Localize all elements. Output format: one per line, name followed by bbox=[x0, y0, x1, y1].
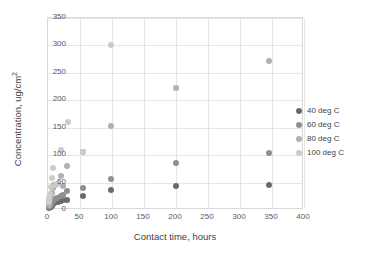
data-point bbox=[266, 182, 272, 188]
data-point bbox=[80, 193, 86, 199]
legend-item-label: 40 deg C bbox=[307, 107, 339, 115]
data-point bbox=[108, 42, 114, 48]
gridline-horizontal bbox=[48, 18, 302, 19]
data-point bbox=[108, 176, 114, 182]
y-axis-title: Concentration, ug/cm2 bbox=[11, 39, 23, 199]
data-point bbox=[64, 163, 70, 169]
y-tick-label: 350 bbox=[26, 13, 66, 21]
gridline-horizontal bbox=[48, 128, 302, 129]
y-axis-title-text: Concentration, ug/cm bbox=[12, 76, 23, 166]
y-tick-label: 250 bbox=[26, 68, 66, 76]
data-point bbox=[173, 85, 179, 91]
legend-marker-icon bbox=[296, 122, 302, 128]
gridline-vertical bbox=[176, 18, 177, 208]
scatter-chart: 050100150200250300350 050100150200250300… bbox=[0, 0, 373, 254]
gridline-vertical bbox=[80, 18, 81, 208]
gridline-vertical bbox=[240, 18, 241, 208]
data-point bbox=[64, 188, 70, 194]
gridline-horizontal bbox=[48, 155, 302, 156]
legend-item[interactable]: 40 deg C bbox=[296, 104, 373, 118]
legend-item[interactable]: 60 deg C bbox=[296, 118, 373, 132]
data-point bbox=[173, 183, 179, 189]
legend-item[interactable]: 100 deg C bbox=[296, 146, 373, 160]
y-tick-label: 300 bbox=[26, 40, 66, 48]
data-point bbox=[108, 187, 114, 193]
data-point bbox=[64, 197, 70, 203]
legend-item-label: 80 deg C bbox=[307, 135, 339, 143]
data-point bbox=[50, 165, 56, 171]
data-point bbox=[266, 150, 272, 156]
gridline-vertical bbox=[144, 18, 145, 208]
legend-item-label: 60 deg C bbox=[307, 121, 339, 129]
y-tick-label: 150 bbox=[26, 123, 66, 131]
y-tick-label: 200 bbox=[26, 95, 66, 103]
data-point bbox=[80, 149, 86, 155]
legend-marker-icon bbox=[296, 150, 302, 156]
legend: 40 deg C60 deg C80 deg C100 deg C bbox=[296, 104, 373, 160]
data-point bbox=[80, 185, 86, 191]
legend-marker-icon bbox=[296, 108, 302, 114]
gridline-vertical bbox=[272, 18, 273, 208]
data-point bbox=[47, 191, 53, 197]
legend-item-label: 100 deg C bbox=[307, 149, 344, 157]
legend-item[interactable]: 80 deg C bbox=[296, 132, 373, 146]
gridline-horizontal bbox=[48, 45, 302, 46]
legend-marker-icon bbox=[296, 136, 302, 142]
gridline-horizontal bbox=[48, 73, 302, 74]
gridline-vertical bbox=[208, 18, 209, 208]
y-axis-title-exponent: 2 bbox=[11, 72, 18, 76]
y-tick-label: 50 bbox=[26, 178, 66, 186]
y-tick-label: 100 bbox=[26, 150, 66, 158]
x-tick-label: 400 bbox=[283, 213, 323, 221]
data-point bbox=[266, 58, 272, 64]
data-point bbox=[173, 160, 179, 166]
x-axis-title: Contact time, hours bbox=[47, 231, 303, 242]
data-point bbox=[108, 123, 114, 129]
gridline-horizontal bbox=[48, 100, 302, 101]
plot-area bbox=[47, 17, 303, 209]
